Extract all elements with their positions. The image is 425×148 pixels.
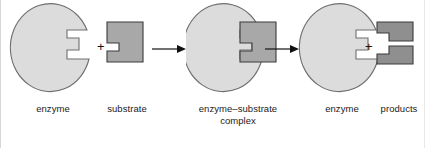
arrow-right-icon [151,43,187,55]
caption-complex-line1: enzyme–substrate [186,103,290,115]
caption-complex-line2: complex [186,115,290,127]
stage-enzyme-substrate-complex: enzyme–substrate complex [186,0,290,148]
reaction-arrow-2 [264,41,300,59]
reaction-arrow-1 [151,41,187,59]
caption-substrate: substrate [101,103,153,115]
stage-substrate: substrate [101,0,153,148]
substrate-shape [101,0,153,96]
stage-enzyme-1: enzyme [9,0,97,148]
caption-products: products [373,103,425,115]
arrow-right-icon [264,43,300,55]
enzyme-shape [9,0,97,96]
plus-sign-2: + [365,40,373,53]
caption-enzyme-1: enzyme [9,103,97,115]
products-shape [373,0,425,96]
stage-products: products [373,0,425,148]
enzyme-reaction-diagram: enzyme + substrate enzyme–substrate comp… [0,0,425,148]
